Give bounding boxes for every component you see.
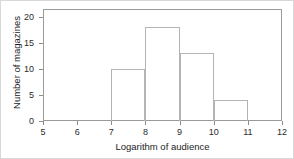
x-tick-label: 7 xyxy=(100,127,122,138)
x-tick-label: 11 xyxy=(237,127,259,138)
x-tick-label: 5 xyxy=(32,127,54,138)
x-tick-mark xyxy=(214,121,215,125)
x-tick-label: 8 xyxy=(134,127,156,138)
histogram-bar xyxy=(145,27,179,121)
x-tick-mark xyxy=(77,121,78,125)
x-tick-mark xyxy=(282,121,283,125)
y-axis-label: Number of magazines xyxy=(11,0,22,128)
y-tick-mark xyxy=(39,69,43,70)
x-tick-label: 9 xyxy=(169,127,191,138)
histogram-figure: 56789101112 05101520 Logarithm of audien… xyxy=(0,0,294,159)
x-tick-mark xyxy=(145,121,146,125)
y-tick-mark xyxy=(39,95,43,96)
histogram-bar xyxy=(111,69,145,121)
x-tick-mark xyxy=(180,121,181,125)
y-tick-mark xyxy=(39,43,43,44)
x-tick-mark xyxy=(248,121,249,125)
x-tick-label: 6 xyxy=(66,127,88,138)
y-tick-mark xyxy=(39,121,43,122)
x-tick-mark xyxy=(111,121,112,125)
histogram-bar xyxy=(180,53,214,121)
x-tick-label: 10 xyxy=(203,127,225,138)
x-tick-mark xyxy=(43,121,44,125)
histogram-bar xyxy=(214,100,248,121)
x-tick-label: 12 xyxy=(271,127,293,138)
y-tick-mark xyxy=(39,17,43,18)
x-axis-label: Logarithm of audience xyxy=(43,141,282,152)
